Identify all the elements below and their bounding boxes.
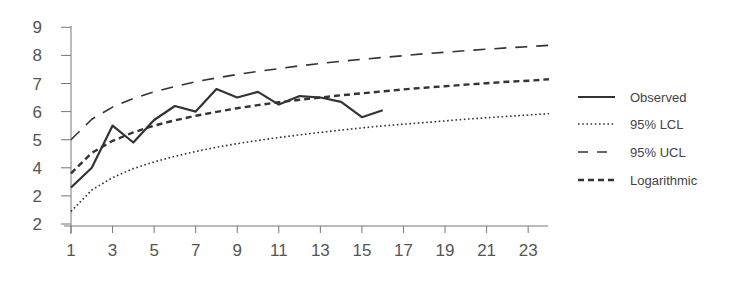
axes: [61, 26, 548, 234]
series-observed: [71, 89, 383, 187]
x-tick-label: 17: [394, 241, 413, 260]
legend-label: Logarithmic: [630, 173, 698, 188]
legend-item: Logarithmic: [578, 173, 698, 188]
y-tick-label: 7: [33, 75, 42, 94]
series-95-ucl: [71, 45, 549, 139]
x-tick-label: 3: [108, 241, 117, 260]
legend-label: 95% LCL: [630, 117, 683, 132]
x-tick-label: 21: [477, 241, 496, 260]
legend-item: Observed: [578, 90, 686, 105]
y-tick-label: 9: [33, 18, 42, 37]
y-tick-label: 8: [33, 46, 42, 65]
x-tick-label: 13: [311, 241, 330, 260]
x-tick-label: 5: [149, 241, 158, 260]
x-tick-label: 9: [233, 241, 242, 260]
y-tick-label: 4: [33, 159, 42, 178]
x-tick-label: 23: [519, 241, 538, 260]
legend-label: 95% UCL: [630, 145, 686, 160]
y-tick-label: 6: [33, 103, 42, 122]
x-tick-label: 15: [352, 241, 371, 260]
y-tick-label: 5: [33, 131, 42, 150]
legend-item: 95% UCL: [578, 145, 686, 160]
y-tick-label: 2: [33, 187, 42, 206]
x-tick-label: 19: [436, 241, 455, 260]
y-axis-labels: 98765422: [33, 18, 42, 234]
legend-label: Observed: [630, 90, 686, 105]
x-axis-labels: 1357911131517192123: [66, 241, 537, 260]
x-tick-label: 11: [270, 241, 288, 260]
y-tick-label: 2: [33, 215, 42, 234]
chart-container: 98765422 1357911131517192123 Observed95%…: [0, 0, 735, 286]
series-layer: [71, 45, 549, 211]
x-tick-label: 1: [66, 241, 75, 260]
series-logarithmic: [71, 79, 549, 173]
legend: Observed95% LCL95% UCLLogarithmic: [578, 90, 698, 188]
line-chart: 98765422 1357911131517192123 Observed95%…: [0, 0, 735, 286]
x-tick-label: 7: [191, 241, 200, 260]
legend-item: 95% LCL: [578, 117, 683, 132]
